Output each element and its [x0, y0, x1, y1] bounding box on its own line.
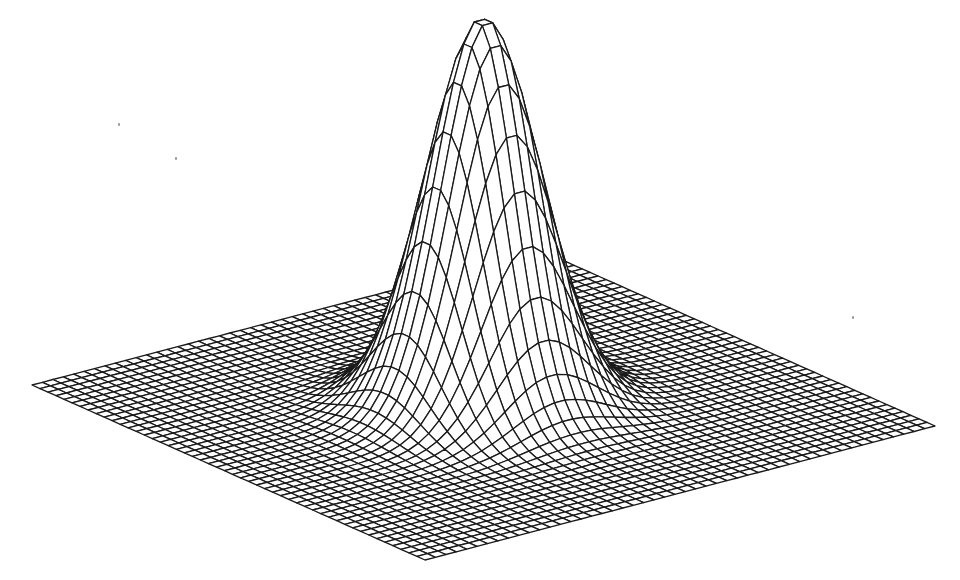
speck [852, 316, 854, 319]
surface-mesh [32, 19, 935, 560]
speck [175, 157, 177, 160]
speck [118, 123, 120, 126]
wireframe-surface-plot [0, 0, 960, 580]
